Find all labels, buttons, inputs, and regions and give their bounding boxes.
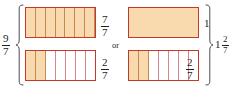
- bar-cell: [85, 8, 95, 37]
- bar-cell: [149, 51, 159, 80]
- bar-cell: [36, 51, 46, 80]
- left-top-bar-label-denominator: 7: [101, 26, 109, 38]
- bar-cell: [46, 51, 56, 80]
- left-top-bar-label-fraction: 7 7: [101, 14, 109, 38]
- left-brace-icon: [15, 4, 24, 86]
- bar-cell: [86, 51, 95, 80]
- bar-cell: [66, 51, 76, 80]
- bar-cell: [169, 51, 179, 80]
- right-brace-icon: [205, 4, 214, 86]
- bar-cell: [159, 51, 169, 80]
- right-brace-label-denominator: 7: [222, 45, 229, 55]
- left-bottom-bar-label-numerator: 2: [101, 57, 109, 68]
- left-brace-label-denominator: 7: [2, 45, 10, 57]
- right-bottom-bar-label-numerator: 2: [186, 57, 194, 68]
- left-bottom-bar-label-denominator: 7: [101, 69, 109, 81]
- bar-cell: [46, 8, 56, 37]
- right-bottom-bar-label-fraction: 2 7: [186, 57, 194, 81]
- bar-cell: [65, 8, 75, 37]
- bar-cell: [56, 51, 66, 80]
- bar-cell: [56, 8, 66, 37]
- left-bottom-bar-label-fraction: 2 7: [101, 57, 109, 81]
- left-brace-label-fraction: 9 7: [2, 33, 10, 57]
- bar-cell: [36, 8, 46, 37]
- bar-cell: [26, 8, 36, 37]
- right-brace-label-fraction: 2 7: [222, 35, 229, 55]
- fraction-model-diagram: 9 7 7 7 2 7 or: [0, 0, 233, 90]
- right-brace-label-numerator: 2: [222, 35, 229, 44]
- bar-cell: [139, 51, 149, 80]
- right-bottom-bar-label-denominator: 7: [186, 69, 194, 81]
- bar-cell: [129, 51, 139, 80]
- left-top-bar: [25, 7, 96, 38]
- right-top-bar: [128, 7, 199, 38]
- left-bottom-bar: [25, 50, 96, 81]
- left-brace-label-numerator: 9: [2, 33, 10, 44]
- right-brace-label-mixed-number: 1 2 7: [215, 35, 229, 55]
- left-top-bar-label-numerator: 7: [101, 14, 109, 25]
- right-brace-label-whole: 1: [215, 39, 221, 50]
- bar-cell: [75, 8, 85, 37]
- bar-cell: [76, 51, 86, 80]
- bar-cell: [129, 8, 198, 37]
- or-connector-label: or: [112, 41, 119, 50]
- bar-cell: [26, 51, 36, 80]
